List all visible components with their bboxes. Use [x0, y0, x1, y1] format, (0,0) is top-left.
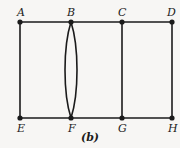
vertex-label-c: C [118, 7, 126, 18]
vertex-d [169, 19, 174, 24]
vertex-a [17, 19, 22, 24]
vertex-e [17, 115, 22, 120]
vertex-label-g: G [118, 123, 127, 134]
vertex-h [169, 115, 174, 120]
figure-caption: (b) [70, 132, 110, 143]
edge-BF-left [65, 22, 71, 118]
vertex-b [68, 19, 73, 24]
vertex-g [119, 115, 124, 120]
graph-canvas [0, 0, 180, 148]
vertex-label-a: A [17, 7, 25, 18]
vertex-c [119, 19, 124, 24]
edges-group [20, 22, 172, 118]
vertex-label-b: B [67, 7, 75, 18]
vertex-label-d: D [167, 7, 176, 18]
vertex-label-e: E [17, 123, 25, 134]
vertex-label-h: H [168, 123, 178, 134]
vertex-f [68, 115, 73, 120]
figure-container: ABCDEFGH (b) [0, 0, 180, 148]
edge-BF-right [71, 22, 77, 118]
vertices-group [17, 19, 174, 120]
